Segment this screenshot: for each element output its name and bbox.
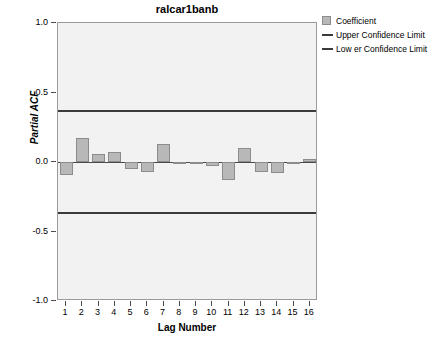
y-tick-label: -0.5: [8, 226, 48, 236]
legend-square-swatch-icon: [322, 16, 331, 25]
bar-lag-1: [60, 162, 73, 175]
x-tick-mark: [163, 301, 164, 306]
x-tick-mark: [228, 301, 229, 306]
y-tick-mark: [51, 22, 56, 23]
legend-item: Coefficient: [322, 14, 434, 27]
bar-lag-12: [238, 148, 251, 162]
bar-lag-13: [255, 162, 268, 172]
bar-lag-16: [303, 159, 316, 162]
bar-lag-9: [190, 162, 203, 164]
x-tick-mark: [244, 301, 245, 306]
y-tick-label: 0.0: [8, 156, 48, 166]
x-tick-mark: [98, 301, 99, 306]
y-tick-mark: [51, 92, 56, 93]
legend-line-swatch-icon: [322, 48, 333, 50]
legend-line-swatch-icon: [322, 34, 333, 36]
x-tick-label-16: 16: [299, 307, 319, 317]
partial-acf-chart: ralcar1banb Partial ACF 1.00.50.0-0.5-1.…: [0, 0, 435, 358]
upper-confidence-limit-line: [58, 110, 316, 112]
legend-item: Upper Confidence Limit: [322, 28, 434, 41]
x-tick-mark: [146, 301, 147, 306]
legend-item: Low er Confidence Limit: [322, 42, 434, 55]
bar-lag-8: [173, 162, 186, 164]
y-tick-mark: [51, 231, 56, 232]
x-axis-title: Lag Number: [57, 322, 317, 333]
bar-lag-15: [287, 162, 300, 164]
x-tick-mark: [81, 301, 82, 306]
x-tick-mark: [195, 301, 196, 306]
legend-item-label: Low er Confidence Limit: [336, 44, 427, 54]
x-tick-mark: [260, 301, 261, 306]
plot-inner: [58, 23, 316, 299]
bar-lag-14: [271, 162, 284, 173]
x-tick-mark: [309, 301, 310, 306]
legend-item-label: Upper Confidence Limit: [336, 30, 425, 40]
x-tick-mark: [211, 301, 212, 306]
chart-title: ralcar1banb: [57, 3, 317, 15]
legend-item-label: Coefficient: [336, 16, 376, 26]
bar-lag-10: [206, 162, 219, 166]
y-tick-label: -1.0: [8, 295, 48, 305]
x-tick-mark: [293, 301, 294, 306]
y-tick-label: 0.5: [8, 87, 48, 97]
bar-lag-6: [141, 162, 154, 172]
y-tick-mark: [51, 300, 56, 301]
y-tick-mark: [51, 161, 56, 162]
bar-lag-11: [222, 162, 235, 180]
bar-lag-7: [157, 144, 170, 162]
bar-lag-2: [76, 138, 89, 162]
x-tick-mark: [179, 301, 180, 306]
bar-lag-5: [125, 162, 138, 169]
bar-lag-3: [92, 154, 105, 162]
plot-area: [57, 22, 317, 300]
bar-lag-4: [108, 152, 121, 162]
chart-legend: CoefficientUpper Confidence LimitLow er …: [322, 14, 434, 56]
x-tick-mark: [276, 301, 277, 306]
x-tick-mark: [114, 301, 115, 306]
x-tick-mark: [65, 301, 66, 306]
y-tick-label: 1.0: [8, 17, 48, 27]
lower-confidence-limit-line: [58, 212, 316, 214]
x-tick-mark: [130, 301, 131, 306]
